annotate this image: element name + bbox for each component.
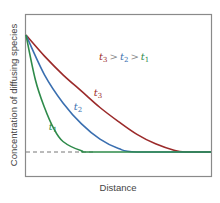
y-axis-label: Concentration of diffusing species xyxy=(8,24,19,166)
label-t2-sub: 2 xyxy=(78,106,82,114)
diffusion-chart xyxy=(0,0,220,203)
label-t3: t3 xyxy=(94,87,103,100)
legend-t2: t2 xyxy=(120,51,129,62)
legend-t3: t3 xyxy=(99,51,108,62)
time-order-legend: t3>t2>t1 xyxy=(99,51,149,64)
label-t1-sub: 1 xyxy=(53,126,57,134)
label-t2: t2 xyxy=(74,101,83,114)
legend-t1: t1 xyxy=(141,51,150,62)
label-t1: t1 xyxy=(49,121,58,134)
x-axis-label: Distance xyxy=(100,182,137,193)
legend-gt-1: > xyxy=(110,51,118,62)
legend-gt-2: > xyxy=(130,51,138,62)
label-t3-sub: 3 xyxy=(98,92,102,100)
